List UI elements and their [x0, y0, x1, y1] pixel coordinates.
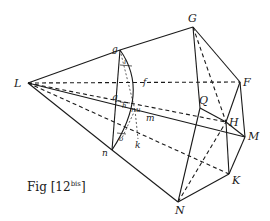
edge-G-F	[193, 27, 240, 82]
label-K: K	[231, 174, 241, 187]
label-F: F	[242, 76, 251, 89]
label-u: u	[136, 106, 141, 114]
edge-M-K	[229, 137, 245, 174]
edge-L-g	[28, 50, 120, 83]
label-h: h	[122, 102, 127, 110]
label-G: G	[188, 12, 197, 25]
edge-G-H-dashed	[193, 27, 226, 122]
figure-caption: Fig [12bis]	[27, 180, 86, 194]
label-g: g	[112, 44, 118, 54]
edge-N-Q	[178, 108, 200, 202]
label-L: L	[13, 77, 21, 90]
caption-main: Fig [12	[27, 180, 71, 194]
tick-o	[117, 133, 126, 134]
edge-Q-H	[200, 108, 226, 122]
label-N: N	[174, 204, 185, 217]
label-k: k	[135, 140, 140, 150]
label-Q: Q	[199, 94, 208, 107]
edge-H-K	[226, 122, 229, 174]
caption-superscript: bis	[71, 180, 81, 188]
caption-close: ]	[81, 180, 86, 194]
label-o: o	[119, 135, 123, 143]
label-i: i	[124, 58, 126, 66]
edge-g-G	[120, 27, 193, 50]
label-M: M	[247, 130, 260, 143]
label-q: q	[112, 92, 118, 102]
edge-K-N	[178, 174, 229, 202]
label-n: n	[102, 148, 108, 158]
label-m: m	[146, 113, 155, 123]
edge-L-F-dashed	[28, 82, 240, 83]
geometry-figure: L G F Q H M K N g f q h i r u m o k n Fi…	[0, 0, 270, 221]
label-H: H	[228, 116, 239, 129]
edge-n-N	[112, 150, 178, 202]
edge-F-M	[240, 82, 245, 137]
line-u-k	[135, 110, 138, 139]
